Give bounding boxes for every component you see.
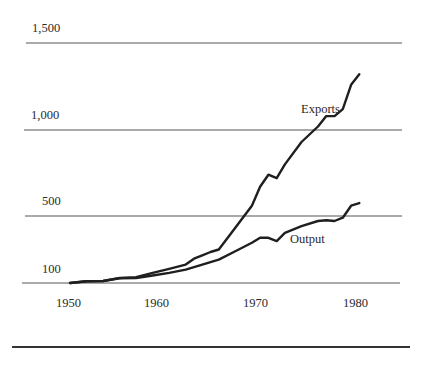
chart-canvas bbox=[0, 0, 423, 371]
x-tick-label-1980: 1980 bbox=[343, 297, 368, 310]
line-chart: 1,500 1,000 500 100 1950 1960 1970 1980 … bbox=[0, 0, 423, 371]
y-tick-label-100: 100 bbox=[42, 263, 61, 276]
x-tick-label-1960: 1960 bbox=[144, 297, 169, 310]
gridlines bbox=[22, 43, 402, 283]
series-label-output: Output bbox=[290, 233, 325, 246]
x-tick-label-1950: 1950 bbox=[56, 297, 81, 310]
series-label-exports: Exports bbox=[301, 103, 340, 116]
y-tick-label-500: 500 bbox=[42, 195, 61, 208]
x-tick-label-1970: 1970 bbox=[243, 297, 268, 310]
y-tick-label-1000: 1,000 bbox=[31, 109, 59, 122]
y-tick-label-1500: 1,500 bbox=[32, 22, 60, 35]
